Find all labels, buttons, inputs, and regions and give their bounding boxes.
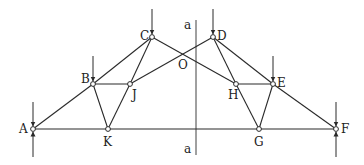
member-EF [273, 84, 336, 129]
member-DE [213, 37, 273, 84]
section-label-top: a [184, 18, 191, 32]
label-A: A [18, 122, 28, 136]
label-G: G [254, 135, 264, 149]
label-C: C [140, 29, 149, 43]
joint-G [257, 127, 262, 132]
joint-H [234, 82, 239, 87]
section-label-bottom: a [184, 142, 191, 156]
joint-K [106, 127, 111, 132]
joint-F [334, 127, 339, 132]
member-AB [33, 84, 93, 129]
joint-D [211, 35, 216, 40]
member-CJ [130, 37, 152, 84]
truss-members [33, 37, 336, 129]
label-K: K [103, 135, 113, 149]
joint-E [271, 82, 276, 87]
joints [31, 35, 339, 132]
label-H: H [228, 88, 238, 102]
member-HG [236, 84, 259, 129]
node-labels: A B C D E F G H J K O [18, 29, 349, 149]
label-O: O [178, 58, 188, 72]
label-F: F [341, 122, 349, 136]
label-E: E [277, 76, 286, 90]
member-BK [93, 84, 108, 129]
member-CH [152, 37, 236, 84]
member-EG [259, 84, 273, 129]
label-D: D [217, 29, 227, 43]
label-B: B [81, 72, 90, 86]
member-JK [108, 84, 130, 129]
joint-J [128, 82, 133, 87]
joint-C [150, 35, 155, 40]
joint-A [31, 127, 36, 132]
truss-diagram: a a [0, 0, 364, 165]
label-J: J [130, 88, 137, 102]
joint-B [91, 82, 96, 87]
